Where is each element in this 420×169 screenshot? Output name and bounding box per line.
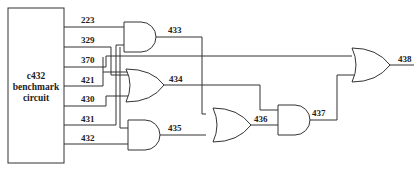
net-label-432: 432 [81, 133, 95, 143]
wire-329-branch [120, 47, 128, 128]
circuit-svg: c432 benchmark circuit 433 434 435 436 4… [0, 0, 420, 169]
and-gate-433 [124, 22, 156, 52]
and-gate-437 [278, 105, 310, 135]
net-label-223: 223 [81, 15, 95, 25]
net-label-436: 436 [254, 114, 268, 124]
or-gate-438 [352, 48, 390, 82]
wire-434 [164, 85, 278, 110]
wire-370 [64, 56, 352, 67]
or-gate-436 [213, 108, 251, 142]
net-label-438: 438 [398, 54, 412, 64]
net-label-421: 421 [81, 75, 95, 85]
net-label-370: 370 [81, 55, 95, 65]
or-gate-434 [126, 69, 164, 102]
net-label-329: 329 [81, 35, 95, 45]
net-label-434: 434 [169, 74, 183, 84]
block-label-line2: benchmark [13, 82, 60, 92]
net-label-431: 431 [81, 114, 95, 124]
net-label-437: 437 [312, 108, 326, 118]
circuit-diagram: c432 benchmark circuit 433 434 435 436 4… [0, 0, 420, 169]
block-label-line1: c432 [27, 71, 46, 81]
net-label-430: 430 [81, 94, 95, 104]
block-label-line3: circuit [23, 93, 50, 103]
wire-430 [64, 96, 128, 106]
net-label-435: 435 [168, 123, 182, 133]
net-label-433: 433 [168, 25, 182, 35]
and-gate-435 [128, 120, 160, 150]
